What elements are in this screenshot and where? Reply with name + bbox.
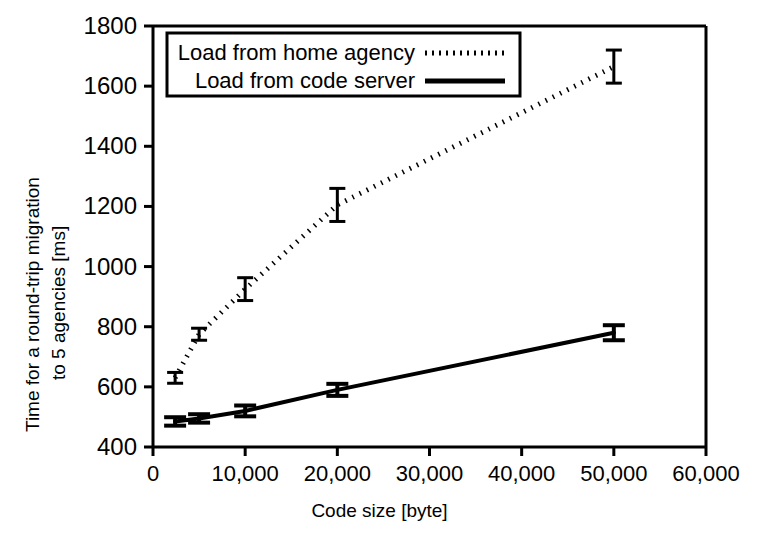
error-bar <box>167 372 183 383</box>
series-line-0 <box>175 67 614 378</box>
error-bar <box>606 50 622 83</box>
plot-area: 40060080010001200140016001800010,00020,0… <box>0 0 759 554</box>
y-tick-label: 1000 <box>84 253 137 280</box>
generated-plot: 40060080010001200140016001800010,00020,0… <box>84 12 740 486</box>
chart-figure: Time for a round-trip migration to 5 age… <box>0 0 759 554</box>
x-tick-label: 20,000 <box>304 461 371 486</box>
x-tick-label: 40,000 <box>488 461 555 486</box>
y-tick-label: 800 <box>97 313 137 340</box>
y-tick-label: 400 <box>97 433 137 460</box>
series-line-1 <box>175 333 614 422</box>
x-tick-label: 60,000 <box>672 461 739 486</box>
x-tick-label: 30,000 <box>396 461 463 486</box>
error-bar <box>329 188 345 221</box>
y-tick-label: 1400 <box>84 132 137 159</box>
x-tick-label: 0 <box>147 461 159 486</box>
legend-label-0: Load from home agency <box>178 40 415 65</box>
y-tick-label: 600 <box>97 373 137 400</box>
x-tick-label: 50,000 <box>580 461 647 486</box>
legend-label-1: Load from code server <box>195 68 415 93</box>
y-tick-label: 1200 <box>84 192 137 219</box>
y-tick-label: 1600 <box>84 72 137 99</box>
y-tick-label: 1800 <box>84 12 137 39</box>
x-tick-label: 10,000 <box>212 461 279 486</box>
